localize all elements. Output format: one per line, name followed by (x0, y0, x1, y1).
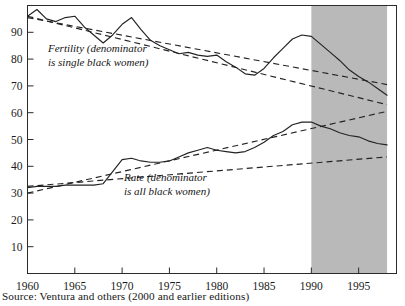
annotation-rate: Rate (denominator is all black women) (123, 171, 210, 198)
y-tick-label: 70 (11, 80, 23, 92)
y-axis-labels: 102030405060708090 (11, 26, 23, 252)
y-tick-label: 90 (11, 26, 23, 38)
x-tick-label: 1985 (253, 280, 276, 292)
axis-ticks-layer (28, 32, 359, 273)
line-chart: 102030405060708090 196019651970197519801… (0, 0, 405, 306)
y-tick-label: 20 (11, 214, 23, 226)
annotation-fertility-line1: Fertility (denominator (47, 42, 147, 55)
x-tick-label: 1990 (300, 280, 323, 292)
y-tick-label: 10 (11, 241, 23, 253)
annotation-rate-line2: is all black women) (124, 185, 210, 198)
y-tick-label: 80 (11, 53, 23, 65)
annotation-fertility: Fertility (denominator is single black w… (47, 42, 149, 69)
y-tick-label: 60 (11, 107, 23, 119)
annotation-fertility-line2: is single black women) (48, 56, 149, 69)
source-note: Source: Ventura and others (2000 and ear… (2, 290, 249, 302)
annotation-rate-line1: Rate (denominator (123, 171, 208, 184)
y-tick-label: 30 (11, 187, 23, 199)
y-tick-label: 40 (11, 160, 23, 172)
figure-container: 102030405060708090 196019651970197519801… (0, 0, 405, 306)
y-tick-label: 50 (11, 134, 23, 146)
x-tick-label: 1995 (347, 280, 370, 292)
